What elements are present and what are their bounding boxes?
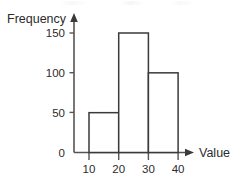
y-axis-arrowhead [70, 13, 78, 22]
y-tick-label-50: 50 [52, 107, 65, 119]
x-axis-ticks: 10 20 30 40 [83, 153, 185, 176]
y-axis-ticks: 150 100 50 0 [46, 27, 74, 158]
histogram-bar-10-20 [89, 113, 119, 153]
histogram-chart: 150 100 50 0 10 20 30 40 Frequency Value [0, 0, 239, 189]
x-axis-title: Value [199, 146, 230, 160]
y-axis-title: Frequency [7, 12, 67, 26]
x-tick-label-10: 10 [83, 163, 96, 175]
bars-layer [89, 33, 178, 153]
histogram-bar-20-30 [119, 33, 149, 153]
y-tick-label-150: 150 [46, 27, 65, 39]
x-tick-label-30: 30 [142, 163, 155, 175]
y-tick-label-100: 100 [46, 67, 65, 79]
histogram-bar-30-40 [148, 73, 178, 153]
y-tick-label-0: 0 [59, 147, 65, 159]
x-tick-label-20: 20 [112, 163, 125, 175]
x-axis-arrowhead [185, 149, 194, 157]
histogram-figure: 150 100 50 0 10 20 30 40 Frequency Value [0, 0, 239, 189]
x-tick-label-40: 40 [172, 163, 185, 175]
